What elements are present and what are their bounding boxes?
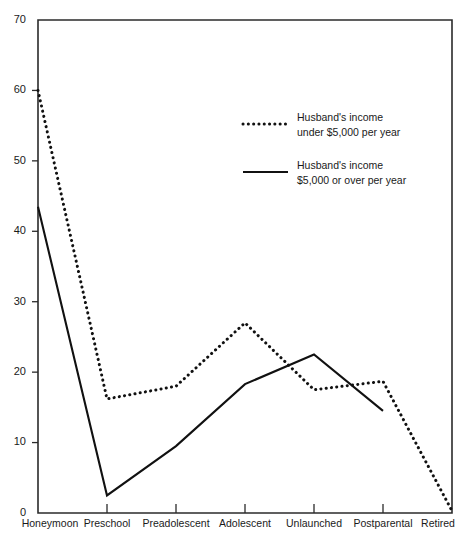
legend-entry-1-line1: Husband's income	[297, 159, 383, 171]
x-axis-tick-label: Postparental	[354, 517, 413, 529]
y-axis-tick-marks	[32, 90, 38, 442]
x-axis-tick-labels: HoneymoonPreschoolPreadolescentAdolescen…	[22, 517, 455, 529]
x-axis-tick-label: Unlaunched	[286, 517, 342, 529]
x-axis-tick-label: Retired	[421, 517, 455, 529]
x-axis-tick-marks	[107, 504, 383, 513]
legend-entry-1-line2: $5,000 or over per year	[297, 174, 407, 186]
chart-legend: Husband's income under $5,000 per year H…	[243, 111, 407, 186]
y-axis-tick-labels: 010203040506070	[14, 13, 26, 518]
x-axis-tick-label: Honeymoon	[22, 517, 79, 529]
line-chart: 010203040506070 HoneymoonPreschoolPreado…	[0, 0, 473, 550]
x-axis-tick-label: Preadolescent	[142, 517, 209, 529]
y-axis-tick-label: 50	[14, 154, 26, 166]
axis-frame-path	[38, 20, 452, 513]
y-axis-tick-label: 30	[14, 295, 26, 307]
y-axis-tick-label: 70	[14, 13, 26, 25]
y-axis-tick-label: 40	[14, 224, 26, 236]
legend-entry-0-line2: under $5,000 per year	[297, 126, 401, 138]
x-axis-tick-label: Adolescent	[219, 517, 271, 529]
legend-entry-0-line1: Husband's income	[297, 111, 383, 123]
figure-container: 010203040506070 HoneymoonPreschoolPreado…	[0, 0, 473, 550]
data-series-layer	[38, 90, 452, 510]
y-axis-tick-label: 60	[14, 83, 26, 95]
plot-frame	[38, 20, 452, 513]
x-axis-tick-label: Preschool	[84, 517, 131, 529]
y-axis-tick-label: 20	[14, 365, 26, 377]
y-axis-tick-label: 10	[14, 435, 26, 447]
series-husbands-income-under-5000	[38, 90, 452, 510]
series-husbands-income-5000-or-over	[38, 207, 383, 496]
